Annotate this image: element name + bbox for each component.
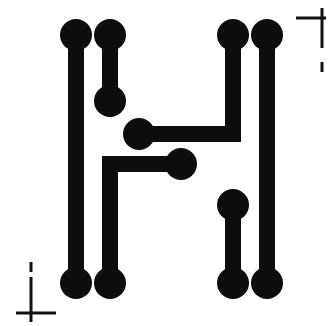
- pad-top-right-outer: [251, 19, 283, 51]
- pad-top-left-outer: [60, 19, 92, 51]
- pad-top-right-inner: [217, 19, 249, 51]
- pad-crossbar-lower: [165, 148, 197, 180]
- image-canvas: [0, 0, 329, 326]
- pad-bottom-right-outer: [251, 267, 283, 299]
- pad-crossbar-upper: [123, 118, 155, 150]
- pad-lower-right-stub: [217, 189, 249, 221]
- pad-bottom-right-inner: [217, 267, 249, 299]
- pad-upper-left-stub: [94, 85, 126, 117]
- pad-bottom-left-outer: [60, 267, 92, 299]
- pad-bottom-left-inner: [94, 267, 126, 299]
- pad-top-left-inner: [94, 19, 126, 51]
- letter-h-pcb-artwork: [0, 0, 329, 326]
